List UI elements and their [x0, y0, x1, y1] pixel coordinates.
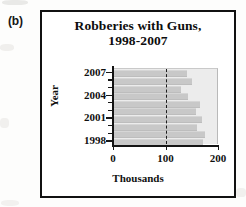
- y-tick-label-1998: 1998: [70, 134, 106, 146]
- bar-2000: [113, 124, 197, 131]
- x-tick-label-0: 0: [110, 152, 116, 164]
- y-tick-2001: [106, 117, 112, 119]
- scan-artifact: [236, 188, 246, 197]
- bar-2005: [113, 86, 181, 93]
- figure-frame: Robberies with Guns, 1998-2007 Year 2007…: [40, 10, 236, 198]
- bar-2007: [113, 70, 187, 77]
- y-axis-line: [112, 66, 114, 146]
- bar-1999: [113, 131, 205, 138]
- y-tick-2005: [108, 87, 112, 88]
- scan-artifact: [1, 200, 19, 206]
- y-tick-1999: [108, 133, 112, 134]
- bar-2002: [113, 108, 196, 115]
- y-tick-2007: [106, 72, 112, 74]
- bar-2004: [113, 93, 188, 100]
- scan-artifact: [0, 44, 14, 51]
- y-tick-label-2004: 2004: [70, 89, 106, 101]
- scan-artifact: [2, 0, 28, 5]
- y-tick-2002: [108, 110, 112, 111]
- y-tick-2004: [106, 95, 112, 97]
- x-tick-100: [166, 146, 167, 150]
- x-tick-200: [218, 146, 219, 150]
- y-tick-2003: [108, 102, 112, 103]
- bar-2003: [113, 101, 200, 108]
- x-tick-0: [113, 146, 114, 150]
- bar-2001: [113, 116, 202, 123]
- plot-area: [113, 68, 218, 144]
- y-tick-2006: [108, 79, 112, 80]
- scan-artifact: [0, 118, 9, 128]
- y-axis-title: Year: [48, 85, 60, 107]
- x-tick-label-200: 200: [210, 152, 227, 164]
- y-tick-1998: [106, 140, 112, 142]
- y-tick-label-2001: 2001: [70, 111, 106, 123]
- x-tick-label-100: 100: [157, 152, 174, 164]
- reference-line-100: [166, 69, 167, 144]
- y-tick-label-2007: 2007: [70, 66, 106, 78]
- y-tick-2000: [108, 125, 112, 126]
- figure-panel-label: (b): [8, 14, 23, 28]
- x-axis-title: Thousands: [42, 172, 234, 184]
- bar-2006: [113, 78, 192, 85]
